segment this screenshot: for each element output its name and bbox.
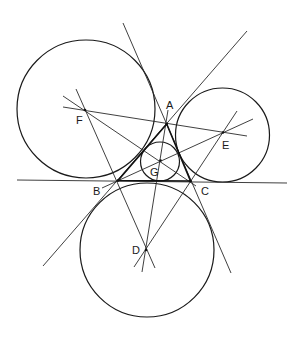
circles-group: [17, 40, 270, 317]
line-B-E: [102, 119, 253, 188]
point-C: [189, 180, 192, 183]
point-A: [165, 123, 168, 126]
label-E: E: [222, 139, 229, 151]
point-F: [84, 109, 87, 112]
excircle-F: [17, 40, 155, 178]
label-G: G: [150, 166, 159, 178]
labels-group: ABCDEFG: [76, 99, 229, 256]
label-C: C: [201, 185, 209, 197]
point-B: [117, 179, 120, 182]
line-A-D: [142, 110, 168, 272]
lines-group: [17, 23, 287, 273]
point-D: [145, 249, 148, 252]
label-F: F: [76, 114, 83, 126]
line-D-E: [134, 111, 237, 267]
geometry-diagram: ABCDEFG: [0, 0, 303, 339]
excircle-E: [176, 88, 270, 182]
point-E: [222, 131, 225, 134]
label-A: A: [166, 99, 174, 111]
point-G: [159, 159, 162, 162]
label-B: B: [93, 185, 100, 197]
label-D: D: [132, 244, 140, 256]
